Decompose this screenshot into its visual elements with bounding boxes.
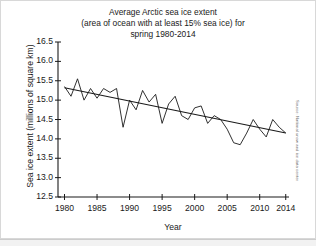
axis-lines <box>58 42 289 197</box>
data-series-line <box>65 79 286 145</box>
plot-area <box>1 1 316 240</box>
chart-figure: Average Arctic sea ice extent (area of o… <box>0 0 316 239</box>
bottom-strip <box>0 239 316 246</box>
axis-tick-marks <box>55 42 286 200</box>
trend-line <box>65 88 286 133</box>
